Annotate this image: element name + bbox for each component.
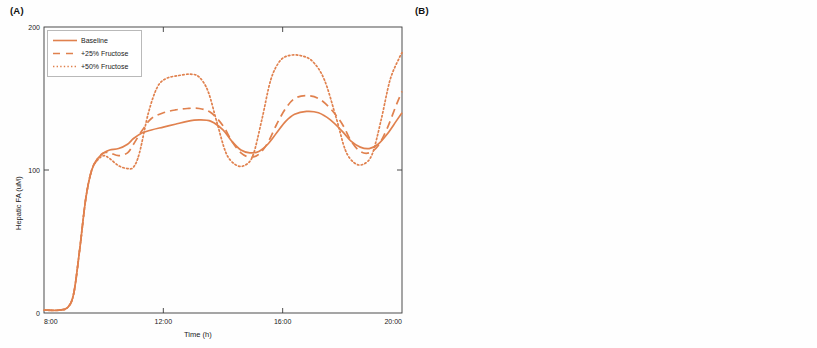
panel-b: (B) 8:0012:0016:0020:000500100015002000 …: [410, 0, 817, 348]
legend-line-solid-icon: [52, 36, 78, 45]
y-axis-title-a: Hepatic FA (uM): [14, 176, 23, 230]
series-line: [44, 111, 402, 310]
svg-text:20:00: 20:00: [384, 318, 402, 325]
legend-label-50-a: +50% Fructose: [81, 62, 128, 71]
legend-line-dotted-icon: [52, 62, 78, 71]
legend-item-baseline-a: Baseline: [52, 34, 141, 47]
legend-label-baseline-a: Baseline: [81, 36, 108, 45]
series-line: [44, 53, 402, 311]
x-axis-title-a: Time (h): [184, 330, 212, 339]
legend-a: Baseline +25% Fructose +50% Fructose: [47, 30, 142, 77]
svg-text:8:00: 8:00: [44, 318, 58, 325]
legend-label-25-a: +25% Fructose: [81, 49, 128, 58]
legend-item-25-a: +25% Fructose: [52, 47, 141, 60]
panel-a: (A) 8:0012:0016:0020:000100200 Hepatic F…: [0, 0, 410, 348]
svg-text:12:00: 12:00: [155, 318, 173, 325]
panel-a-label: (A): [10, 5, 24, 16]
legend-line-dashed-icon: [52, 49, 78, 58]
figure-container: (A) 8:0012:0016:0020:000100200 Hepatic F…: [0, 0, 817, 348]
svg-text:200: 200: [28, 24, 40, 31]
svg-text:0: 0: [36, 310, 40, 317]
legend-item-50-a: +50% Fructose: [52, 60, 141, 73]
svg-text:100: 100: [28, 167, 40, 174]
svg-text:16:00: 16:00: [274, 318, 292, 325]
series-line: [44, 91, 402, 310]
panel-b-label: (B): [415, 5, 429, 16]
